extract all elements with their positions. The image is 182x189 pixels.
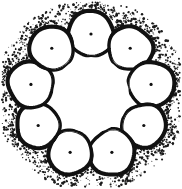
figure-root: Ring assembly of nine circular subunits … <box>0 0 182 189</box>
ring-diagram-canvas <box>0 0 182 189</box>
